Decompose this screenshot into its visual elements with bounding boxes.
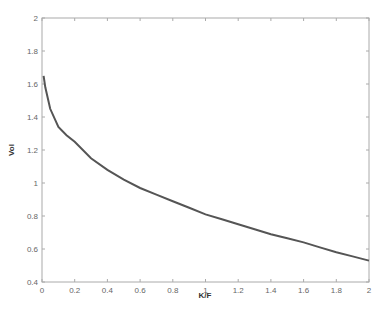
x-tick-label: 0.6	[135, 286, 147, 295]
x-tick-label: 1.6	[298, 286, 310, 295]
x-tick-label: 1.4	[265, 286, 277, 295]
x-axis-label: K/F	[199, 291, 212, 300]
y-tick-label: 1.2	[27, 146, 39, 155]
x-tick-label: 0	[40, 286, 45, 295]
x-tick-label: 1.2	[233, 286, 245, 295]
x-tick-label: 2	[367, 286, 372, 295]
y-tick-label: 0.6	[27, 245, 39, 254]
x-tick-label: 0.8	[167, 286, 179, 295]
y-tick-label: 1.6	[27, 80, 39, 89]
y-tick-label: 1	[34, 179, 39, 188]
plot-area	[42, 18, 369, 282]
y-tick-label: 0.8	[27, 212, 39, 221]
x-tick-label: 1.8	[331, 286, 343, 295]
x-tick-label: 0.4	[102, 286, 114, 295]
line-chart: 00.20.40.60.811.21.41.61.82 0.40.60.811.…	[0, 0, 390, 316]
y-tick-label: 1.8	[27, 47, 39, 56]
y-axis-label: Vol	[7, 144, 16, 156]
y-tick-label: 0.4	[27, 278, 39, 287]
y-tick-label: 2	[34, 14, 39, 23]
x-tick-label: 0.2	[69, 286, 81, 295]
y-tick-label: 1.4	[27, 113, 39, 122]
